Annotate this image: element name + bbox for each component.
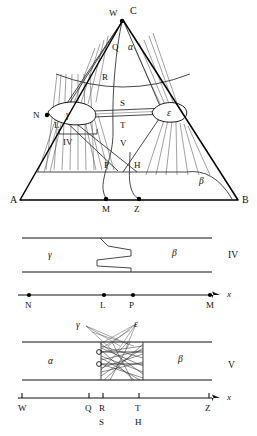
section-v-invariant-lines	[97, 350, 143, 367]
section-iv-title: IV	[228, 250, 238, 260]
point-label-H: H	[134, 160, 141, 170]
phase-label-epsilon-triangle: ε	[167, 108, 171, 118]
point-label-M: M	[102, 204, 110, 214]
tie-line-fan-right	[146, 120, 210, 175]
section-v-tick-label-Z: Z	[205, 403, 211, 413]
point-label-S: S	[120, 98, 125, 108]
section-v-tick-label-S: S	[99, 417, 104, 427]
section-v-tie-line-bundle	[101, 342, 143, 380]
section-iv-zigzag-boundary	[97, 238, 131, 272]
section-marker-iv-triangle: IV	[63, 137, 73, 147]
section-v-axis-arrow	[212, 395, 220, 402]
section-iv-tick-label-L: L	[100, 300, 106, 310]
point-marker-Z	[137, 197, 141, 201]
section-iv-phase-gamma: γ	[48, 250, 52, 260]
alpha-field-arc	[56, 74, 190, 87]
point-label-T: T	[120, 120, 126, 130]
section-v-title: V	[228, 360, 235, 370]
section-v-tick-label-R: R	[99, 403, 105, 413]
point-label-N: N	[33, 110, 40, 120]
phase-label-gamma-triangle: γ	[66, 110, 70, 120]
section-v-phase-epsilon: ε	[134, 319, 138, 329]
point-label-W: W	[109, 8, 118, 18]
section-v-upper-rays	[86, 324, 136, 350]
point-label-Q: Q	[112, 42, 119, 52]
point-marker-M	[104, 197, 108, 201]
section-iv-point-N	[27, 293, 31, 297]
point-label-Z: Z	[134, 204, 140, 214]
vertex-label-C: C	[130, 5, 137, 16]
ternary-diagram: A B C W Q R S T V N L P H M Z α β γ ε IV	[10, 5, 249, 214]
beta-field-arc	[186, 172, 232, 199]
point-marker-N	[45, 113, 49, 117]
section-iv-phase-beta: β	[171, 248, 177, 258]
phase-boundary-rays	[59, 20, 163, 172]
section-iv-tick-label-N: N	[25, 300, 32, 310]
point-label-R: R	[102, 72, 108, 82]
section-iv-axis-arrow	[212, 292, 220, 299]
section-v-phase-gamma: γ	[76, 320, 80, 330]
point-label-V: V	[120, 138, 127, 148]
section-iv-point-L	[102, 293, 106, 297]
section-iv-point-M	[208, 293, 212, 297]
section-v-tick-label-W: W	[18, 403, 27, 413]
figure-root: A B C W Q R S T V N L P H M Z α β γ ε IV…	[0, 0, 257, 436]
section-iv-axis: N L P M x	[18, 289, 231, 310]
point-label-L: L	[54, 120, 60, 130]
phase-label-beta-triangle: β	[198, 176, 204, 186]
section-v-phase-alpha: α	[48, 356, 54, 366]
section-iv-diagram: γ β IV N L P M x	[18, 238, 238, 310]
section-iv-tick-label-P: P	[129, 300, 134, 310]
section-v-axis: W Q R S T H Z x	[18, 392, 231, 427]
section-v-diagram: γ ε α β V W Q R S T H Z x	[18, 319, 235, 427]
vertex-label-B: B	[242, 194, 249, 205]
figure-canvas: A B C W Q R S T V N L P H M Z α β γ ε IV…	[0, 0, 257, 436]
section-iv-axis-label: x	[226, 289, 231, 299]
section-v-phase-beta: β	[177, 354, 183, 364]
section-v-axis-label: x	[226, 392, 231, 402]
section-iv-tick-label-M: M	[206, 300, 214, 310]
section-iv-point-P	[131, 293, 135, 297]
point-marker-W	[120, 19, 124, 23]
section-v-tick-label-Q: Q	[85, 403, 92, 413]
section-v-tick-label-T: T	[135, 403, 141, 413]
section-v-tick-label-H: H	[135, 417, 142, 427]
vertex-label-A: A	[10, 194, 18, 205]
point-label-P: P	[104, 160, 109, 170]
